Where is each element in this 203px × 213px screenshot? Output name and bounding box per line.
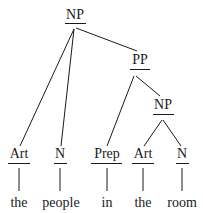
- edge-np-n2: [163, 120, 181, 146]
- node-n2: N: [177, 146, 187, 161]
- node-art2: Art: [134, 146, 153, 161]
- edge-np-art2: [144, 120, 162, 146]
- node-pp: PP: [132, 52, 148, 67]
- edge-np-pp: [76, 28, 137, 51]
- word-the-2: the: [134, 195, 151, 210]
- node-np-root: NP: [66, 7, 84, 22]
- syntax-tree-diagram: NP PP NP Art N Prep Art N the people in …: [0, 0, 203, 213]
- tree-nodes: NP PP NP Art N Prep Art N: [8, 7, 189, 164]
- tree-words: the people in the room: [10, 195, 196, 210]
- word-in: in: [102, 195, 113, 210]
- word-people: people: [42, 195, 79, 210]
- node-art1: Art: [10, 146, 29, 161]
- edge-pp-np: [136, 76, 160, 96]
- word-the: the: [10, 195, 27, 210]
- edge-pp-prep: [107, 76, 134, 146]
- word-room: room: [167, 195, 197, 210]
- edge-np-art: [20, 29, 74, 146]
- tree-svg: NP PP NP Art N Prep Art N the people in …: [0, 0, 203, 213]
- edge-np-n: [61, 29, 74, 146]
- node-n1: N: [55, 146, 65, 161]
- node-prep: Prep: [94, 146, 120, 161]
- node-np-inner: NP: [154, 97, 172, 112]
